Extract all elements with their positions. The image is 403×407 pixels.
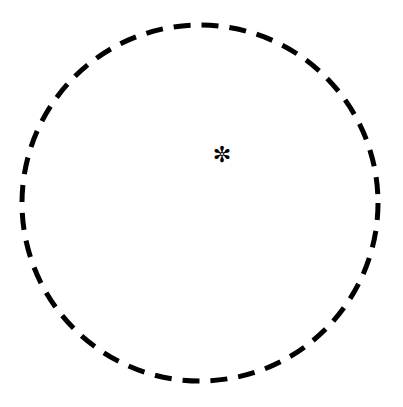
canvas-stage: ✼ xyxy=(0,0,403,407)
background-rect xyxy=(0,0,403,407)
figure-svg xyxy=(0,0,403,407)
